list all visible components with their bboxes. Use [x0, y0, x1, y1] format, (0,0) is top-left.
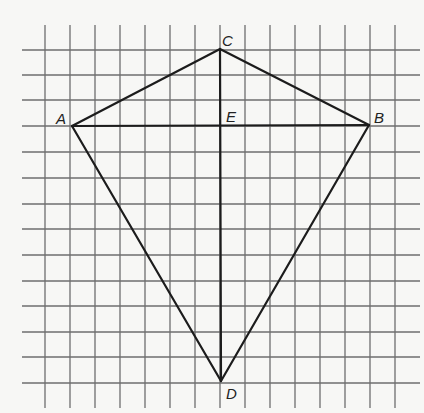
label-d: D — [226, 385, 237, 402]
label-a: A — [55, 110, 66, 127]
label-c: C — [222, 32, 233, 49]
kite-edges — [72, 49, 369, 381]
segment-cd — [220, 49, 221, 381]
label-e: E — [226, 108, 237, 125]
label-b: B — [374, 109, 384, 126]
segment-ac — [72, 49, 220, 126]
kite-diagram: A B C D E — [0, 0, 424, 413]
